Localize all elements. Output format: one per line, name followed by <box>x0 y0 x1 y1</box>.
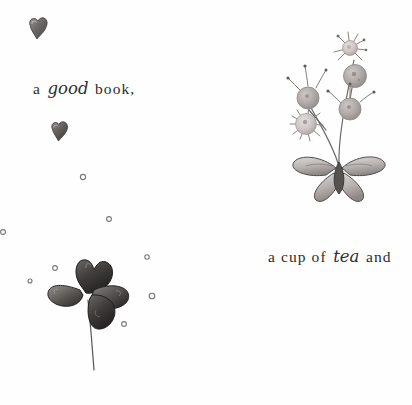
seed-head-starburst-left <box>290 108 323 141</box>
seed-head-starburst-top <box>334 32 367 60</box>
clover-leaf-top <box>76 260 113 293</box>
caption-suffix: book, <box>90 80 135 97</box>
heart-middle-left-illustration <box>47 117 77 145</box>
heart-shape <box>30 18 47 39</box>
speck <box>1 230 6 235</box>
clover-leaf-bottom <box>88 295 115 329</box>
speck <box>107 217 112 222</box>
caption-a-cup-of-tea-and: a cup of tea and <box>268 247 392 266</box>
clover-stem <box>88 300 94 370</box>
seed-head-sphere-left <box>286 64 327 109</box>
heart-shape <box>52 122 68 141</box>
speck-group <box>1 174 155 326</box>
speck <box>122 322 127 327</box>
illustration-page: a good book, a cup of tea and <box>0 0 412 405</box>
scattered-specks-layer <box>0 0 412 405</box>
speck <box>80 174 85 179</box>
speck <box>28 279 32 283</box>
four-leaf-clover-illustration <box>36 246 166 386</box>
seed-head-sphere-lower-right <box>326 83 375 121</box>
caption-suffix: and <box>361 248 392 265</box>
speck <box>53 266 58 271</box>
heart-top-left-illustration <box>23 12 57 46</box>
speck <box>145 255 149 259</box>
caption-script-word: tea <box>332 247 361 266</box>
clover-leaf-right <box>92 286 129 309</box>
caption-prefix: a <box>33 80 46 97</box>
plant-stems <box>308 60 354 166</box>
caption-prefix: a cup of <box>268 248 332 265</box>
speck <box>149 293 155 299</box>
clover-leaf-left <box>48 285 83 306</box>
caption-a-good-book: a good book, <box>33 79 135 98</box>
seed-head-sphere-upper-right <box>344 65 367 88</box>
dandelion-plant-illustration <box>276 18 402 203</box>
butterfly-petal-base <box>293 157 385 202</box>
caption-script-word: good <box>46 79 90 98</box>
